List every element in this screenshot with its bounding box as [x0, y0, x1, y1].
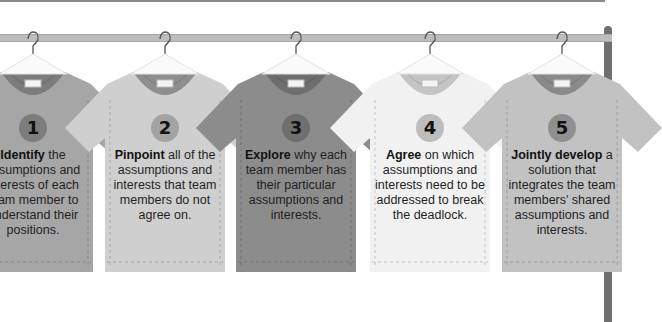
- step-number-badge: 1: [19, 114, 47, 142]
- step-number-badge: 5: [548, 114, 576, 142]
- step-keyword: Pinpoint: [115, 148, 165, 162]
- step-keyword: Agree: [386, 148, 421, 162]
- step-keyword: Explore: [245, 148, 291, 162]
- step-keyword: Jointly develop: [511, 148, 602, 162]
- step-number-badge: 4: [416, 114, 444, 142]
- step-number-badge: 2: [151, 114, 179, 142]
- step-number-badge: 3: [282, 114, 310, 142]
- step-keyword: Identify: [0, 148, 44, 162]
- step-description: Jointly develop a solution that integrat…: [502, 148, 622, 238]
